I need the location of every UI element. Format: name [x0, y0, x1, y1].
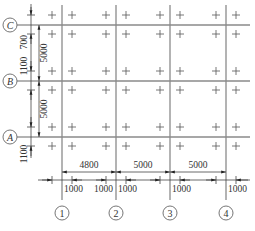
column-cross-icon: [212, 11, 220, 19]
column-cross-icon: [48, 86, 56, 94]
column-cross-icon: [212, 142, 220, 150]
column-cross-icon: [176, 142, 184, 150]
vertical-grid-lines: [62, 5, 226, 200]
left-offset-dimensions: 700 1100 1100: [19, 4, 35, 163]
column-cross-icon: [232, 67, 240, 75]
column-cross-icon: [176, 67, 184, 75]
column-cross-icon: [156, 30, 164, 38]
column-cross-icon: [68, 11, 76, 19]
column-cross-icon: [68, 67, 76, 75]
span-label-C-B: 5000: [39, 43, 49, 62]
axis-bubble-A: A: [3, 130, 40, 144]
column-cross-icon: [232, 142, 240, 150]
offset-label-5: 1000: [228, 184, 247, 194]
column-cross-icon: [102, 123, 110, 131]
offset-label-1: 1000: [64, 184, 83, 194]
column-cross-icon: [122, 123, 130, 131]
offset-label-2: 1000: [94, 184, 113, 194]
column-cross-icon: [156, 142, 164, 150]
axis-bubble-4: 4: [219, 206, 233, 220]
column-cross-icon: [176, 86, 184, 94]
column-cross-icon: [102, 30, 110, 38]
column-cross-icon: [156, 67, 164, 75]
span-label-2-3: 5000: [134, 160, 153, 170]
column-cross-icon: [176, 123, 184, 131]
column-cross-icon: [102, 142, 110, 150]
column-cross-icon: [48, 11, 56, 19]
column-cross-icon: [212, 123, 220, 131]
column-cross-icon: [102, 86, 110, 94]
axis-bubble-3: 3: [163, 206, 177, 220]
column-cross-icon: [212, 86, 220, 94]
offset-label-700: 700: [19, 35, 29, 50]
axis-bubble-1: 1: [55, 206, 69, 220]
axis-label-1: 1: [60, 208, 65, 219]
axis-label-B: B: [7, 76, 13, 87]
column-cross-icon: [68, 123, 76, 131]
column-cross-icon: [122, 30, 130, 38]
bottom-span-dimensions: 4800 5000 5000: [62, 160, 226, 172]
offset-label-3: 1000: [118, 184, 137, 194]
column-cross-icon: [212, 67, 220, 75]
span-label-3-4: 5000: [189, 160, 208, 170]
column-cross-icon: [232, 30, 240, 38]
offset-label-1100-upper: 1100: [19, 56, 29, 75]
offset-label-4: 1000: [172, 184, 191, 194]
column-cross-icon: [212, 30, 220, 38]
column-cross-icon: [122, 67, 130, 75]
column-cross-icon: [48, 123, 56, 131]
column-cross-icon: [232, 86, 240, 94]
column-cross-icon: [176, 11, 184, 19]
column-cross-icon: [102, 11, 110, 19]
column-cross-icon: [68, 86, 76, 94]
column-cross-icon: [122, 86, 130, 94]
column-cross-icon: [48, 67, 56, 75]
column-cross-icon: [68, 30, 76, 38]
column-cross-icon: [48, 142, 56, 150]
column-cross-icon: [102, 67, 110, 75]
axis-label-4: 4: [224, 208, 229, 219]
column-cross-icon: [156, 11, 164, 19]
axis-bubble-C: C: [3, 18, 40, 32]
column-cross-icon: [122, 142, 130, 150]
column-cross-icon: [232, 11, 240, 19]
span-label-1-2: 4800: [80, 160, 99, 170]
horizontal-grid-lines: [40, 25, 250, 137]
axis-label-2: 2: [114, 208, 119, 219]
offset-label-1100-lower: 1100: [19, 144, 29, 163]
column-cross-icon: [176, 30, 184, 38]
column-cross-icon: [48, 30, 56, 38]
column-cross-icon: [156, 123, 164, 131]
column-cross-icon: [156, 86, 164, 94]
column-cross-icon: [68, 142, 76, 150]
column-cross-icon: [122, 11, 130, 19]
bottom-offset-dimensions: 1000 1000 1000 1000 1000: [38, 176, 250, 194]
axis-bubble-2: 2: [109, 206, 123, 220]
axis-label-A: A: [6, 132, 14, 143]
column-cross-icon: [232, 123, 240, 131]
axis-grid-diagram: 1 2 3 4 C B A 4800 5000 5000: [0, 0, 255, 231]
axis-label-C: C: [7, 20, 14, 31]
axis-label-3: 3: [168, 208, 173, 219]
span-label-B-A: 5000: [39, 99, 49, 118]
